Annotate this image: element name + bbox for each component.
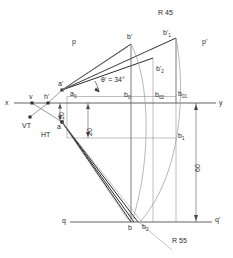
arc-r45 [131, 44, 146, 222]
dim-60-arrow-top [194, 104, 198, 110]
label-horizontal-trace: HT [41, 131, 50, 138]
top-view-rays [62, 122, 138, 222]
point-label-a0: a0 [70, 90, 76, 98]
point-h-prime-marker [47, 102, 50, 105]
point-label-v: v [29, 93, 33, 100]
point-label-a-prime: a' [58, 80, 63, 87]
point-label-b: b [128, 224, 132, 231]
ray-thin-middle [62, 50, 150, 90]
drawing-canvas: x y q q' p p' VT HT v h' a' a a0 b' b'1 … [0, 0, 233, 258]
point-label-h-prime: h' [44, 93, 49, 100]
angle-annotation-theta: θ' = 34° [101, 76, 125, 83]
dimension-text-10: 10 [58, 112, 65, 120]
point-label-b02: b02 [155, 91, 164, 99]
dim-60-group [194, 103, 198, 222]
dim-20-arrow-top [86, 104, 90, 109]
horizontal-trace-line [30, 103, 48, 117]
dimension-text-20: 20 [86, 128, 93, 136]
point-label-b-prime-2: b'2 [156, 65, 164, 73]
radius-annotation-r45: R 45 [158, 9, 173, 16]
horizontal-trace-extension [48, 90, 62, 103]
axis-lines [14, 103, 216, 222]
point-label-b1: b1 [178, 132, 184, 140]
axis-label-y: y [219, 99, 223, 106]
point-label-b-prime-1: b'1 [163, 29, 171, 37]
point-label-b0: b0 [124, 91, 130, 99]
point-label-b2: b2 [142, 223, 148, 231]
linking-verticals [131, 38, 176, 222]
angle-arc-group [95, 81, 100, 92]
axis-label-q: q [62, 217, 66, 224]
geometry-drawing-svg [0, 0, 233, 258]
ray-a-prime-to-b-prime-2 [62, 58, 153, 90]
ray-a-to-b-mid [62, 122, 134, 222]
axis-label-x: x [5, 99, 9, 106]
ray-thin-upper [62, 47, 128, 90]
point-label-b01: b01 [178, 90, 187, 98]
axis-label-q-prime: q' [215, 216, 220, 223]
r55-leader-line [128, 213, 172, 250]
dim-10-arrow-top [58, 104, 62, 109]
top-view-thin-rays [62, 122, 141, 221]
dimension-text-60: 60 [194, 164, 201, 172]
ray-thin-top-b [62, 122, 141, 221]
ray-thin-top-a [62, 122, 128, 220]
plane-label-p-prime: p' [202, 38, 207, 45]
point-label-b-prime: b' [127, 33, 132, 40]
plane-label-p: p [72, 38, 76, 45]
label-vertical-trace: VT [22, 122, 31, 129]
r55-leader [128, 213, 172, 250]
point-label-a: a [57, 123, 61, 130]
point-v-marker [31, 102, 34, 105]
point-vt-marker [29, 116, 32, 119]
radius-annotation-r55: R 55 [172, 237, 187, 244]
dim-60-arrow-bottom [194, 215, 198, 221]
